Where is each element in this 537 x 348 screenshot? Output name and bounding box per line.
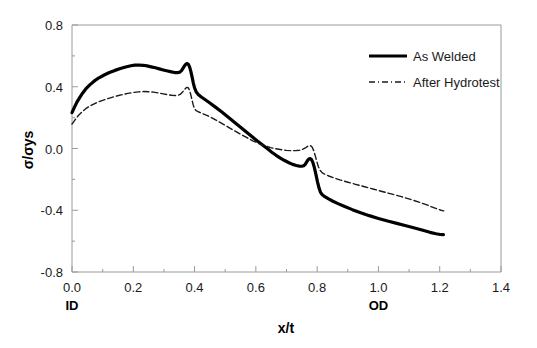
y-tick-label: -0.4	[41, 203, 63, 218]
y-tick-label: 0.4	[45, 80, 63, 95]
axis-label-inner-diameter: ID	[66, 298, 79, 313]
y-tick-label: 0.8	[45, 18, 63, 33]
x-axis-title: x/t	[278, 320, 295, 336]
x-tick-label: 1.0	[369, 280, 387, 295]
stress-profile-chart: 0.80.40.0-0.4-0.8 0.00.20.40.60.81.01.21…	[0, 0, 537, 348]
x-tick-label: 0.4	[186, 280, 204, 295]
x-tick-label: 0.2	[124, 280, 142, 295]
x-tick-label: 0.0	[63, 280, 81, 295]
y-tick-label: -0.8	[41, 265, 63, 280]
x-tick-label: 1.2	[431, 280, 449, 295]
legend-label-as-welded: As Welded	[413, 49, 476, 64]
y-axis-title: σ/σys	[20, 130, 36, 169]
x-tick-label: 0.6	[247, 280, 265, 295]
legend-label-after-hydrotest: After Hydrotest	[413, 75, 500, 90]
x-tick-label: 1.4	[492, 280, 510, 295]
y-tick-label: 0.0	[45, 142, 63, 157]
x-tick-label: 0.8	[308, 280, 326, 295]
axis-label-outer-diameter: OD	[369, 298, 389, 313]
